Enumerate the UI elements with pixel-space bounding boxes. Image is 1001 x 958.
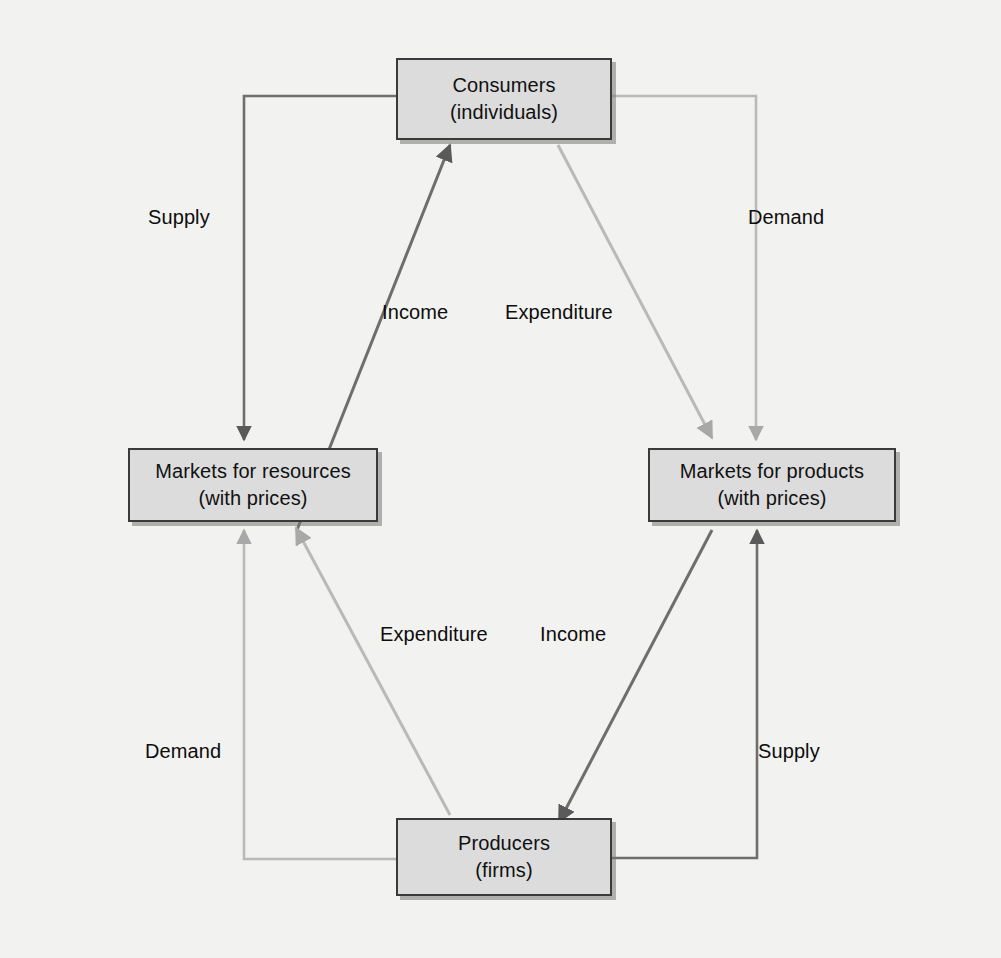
node-consumers-line1: Consumers <box>452 72 555 99</box>
flow-label-demand-right: Demand <box>748 206 824 229</box>
node-producers-line1: Producers <box>458 830 550 857</box>
expenditure-top-arrow <box>558 145 712 438</box>
node-markets-for-resources[interactable]: Markets for resources (with prices) <box>128 448 378 522</box>
node-resources-line2: (with prices) <box>198 485 307 512</box>
flow-label-expenditure-bottom: Expenditure <box>380 623 488 646</box>
node-resources-line1: Markets for resources <box>155 458 351 485</box>
outer-demand-left-path <box>244 530 396 859</box>
node-producers-line2: (firms) <box>475 857 532 884</box>
flow-label-income-top: Income <box>382 301 448 324</box>
node-products-line1: Markets for products <box>680 458 864 485</box>
flow-label-supply-left: Supply <box>148 206 210 229</box>
node-consumers-line2: (individuals) <box>450 99 558 126</box>
expenditure-bottom-arrow <box>296 528 450 815</box>
diagram-canvas: Consumers (individuals) Markets for reso… <box>0 0 1001 958</box>
outer-supply-left-path <box>244 96 396 440</box>
outer-demand-right-path <box>612 96 756 440</box>
outer-supply-right-path <box>612 530 757 858</box>
flow-label-supply-right: Supply <box>758 740 820 763</box>
income-bottom-arrow <box>559 530 712 822</box>
flow-label-expenditure-top: Expenditure <box>505 301 613 324</box>
node-producers[interactable]: Producers (firms) <box>396 818 612 896</box>
flow-label-demand-left: Demand <box>145 740 221 763</box>
node-consumers[interactable]: Consumers (individuals) <box>396 58 612 140</box>
node-products-line2: (with prices) <box>717 485 826 512</box>
node-markets-for-products[interactable]: Markets for products (with prices) <box>648 448 896 522</box>
flow-label-income-bottom: Income <box>540 623 606 646</box>
